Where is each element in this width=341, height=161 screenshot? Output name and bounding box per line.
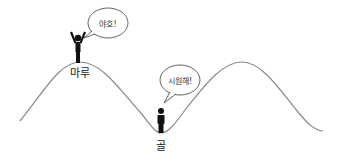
trough-speech-text: 시원해! — [168, 75, 192, 86]
trough-person-icon — [158, 108, 165, 133]
trough-label: 골 — [156, 137, 166, 153]
crest-speech-text: 야호! — [99, 18, 116, 29]
wave-diagram: 야호! 시원해! 마루 골 — [0, 0, 341, 161]
crest-label: 마루 — [70, 64, 90, 80]
crest-person-icon — [71, 32, 85, 63]
